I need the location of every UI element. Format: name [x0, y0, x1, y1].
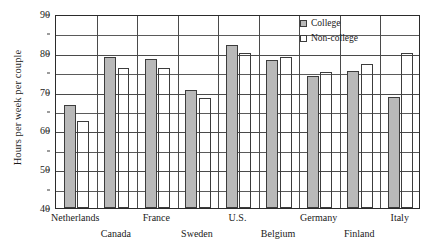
y-axis-tick-mark	[47, 73, 50, 74]
bar-non-college	[280, 57, 292, 208]
legend-label-non-college: Non-college	[311, 31, 358, 46]
bar-non-college	[158, 68, 170, 208]
y-axis-tick-mark	[47, 189, 50, 190]
x-axis-tick-label: U.S.	[229, 212, 247, 223]
x-axis-tick-label: Netherlands	[51, 212, 99, 223]
y-axis-tick-mark	[46, 131, 50, 132]
y-axis-tick-mark	[47, 34, 50, 35]
y-axis-title-text: Hours per week per couple	[13, 50, 24, 166]
bar-non-college	[320, 72, 332, 208]
bar-non-college	[199, 98, 211, 208]
y-axis-tick-labels: 405060708090	[28, 0, 50, 249]
bar-college	[104, 57, 116, 208]
legend-label-college: College	[311, 16, 341, 31]
x-axis-tick-label: Germany	[300, 212, 337, 223]
bar-college	[185, 90, 197, 208]
x-axis-tick-label: Canada	[101, 228, 131, 239]
legend-swatch-college-icon	[300, 20, 307, 27]
bar-college	[347, 71, 359, 208]
bar-college	[64, 105, 76, 208]
bar-series-container	[56, 16, 419, 208]
y-axis-tick-mark	[47, 112, 50, 113]
y-axis-tick-mark	[46, 15, 50, 16]
bar-non-college	[118, 68, 130, 208]
x-axis-tick-label: Italy	[391, 212, 409, 223]
bar-non-college	[77, 121, 89, 208]
x-axis-tick-label: Belgium	[261, 228, 295, 239]
legend-swatch-non-college-icon	[300, 35, 307, 42]
legend-item-college: College	[300, 16, 358, 31]
y-axis-tick-mark	[46, 170, 50, 171]
legend: College Non-college	[300, 16, 358, 45]
legend-item-non-college: Non-college	[300, 31, 358, 46]
y-axis-tick-mark	[46, 53, 50, 54]
bar-college	[145, 59, 157, 208]
y-axis-tick-mark	[47, 150, 50, 151]
x-axis-tick-label: Sweden	[181, 228, 213, 239]
bar-college	[307, 76, 319, 208]
bar-college	[226, 45, 238, 208]
x-axis-tick-label: France	[143, 212, 170, 223]
bar-chart: Hours per week per couple 405060708090 C…	[0, 0, 435, 249]
bar-non-college	[361, 64, 373, 208]
bar-non-college	[239, 53, 251, 208]
bar-college	[266, 60, 278, 208]
bar-college	[388, 97, 400, 208]
bar-non-college	[401, 53, 413, 208]
x-axis-tick-labels: NetherlandsCanadaFranceSwedenU.S.Belgium…	[55, 209, 420, 249]
y-axis-tick-mark	[46, 92, 50, 93]
y-axis-tick-mark	[46, 209, 50, 210]
plot-area	[55, 15, 420, 209]
x-axis-tick-label: Finland	[344, 228, 375, 239]
y-axis-title: Hours per week per couple	[8, 0, 28, 215]
